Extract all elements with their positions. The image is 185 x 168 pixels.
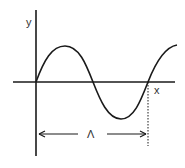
wavelength-label: Λ <box>87 128 95 140</box>
y-axis-label: y <box>26 16 32 28</box>
wave-diagram: y x Λ <box>0 0 185 168</box>
x-axis-label: x <box>154 84 160 96</box>
